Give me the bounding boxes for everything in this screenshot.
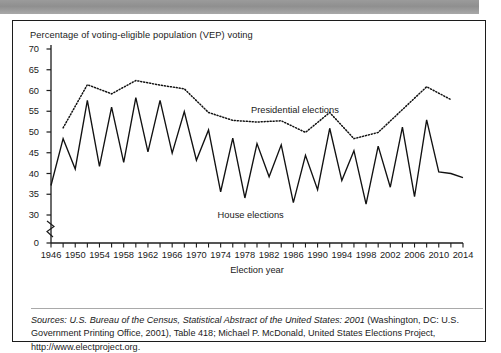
x-tick-label: 1946 [41,250,62,260]
figure-page: Percentage of voting-eligible population… [0,0,501,353]
y-tick-label: 50 [29,127,39,137]
x-tick-label: 1962 [138,250,159,260]
x-tick-label: 1990 [307,250,328,260]
chart-title: Percentage of voting-eligible population… [30,30,253,40]
top-band-right-gap [479,0,501,14]
x-tick-label: 1958 [113,250,134,260]
x-tick-label: 1950 [65,250,86,260]
y-tick-label: 65 [29,65,39,75]
source-citation-italic: U.S. Bureau of the Census, Statistical A… [67,315,365,325]
x-tick-label: 1998 [356,250,377,260]
y-tick-label: 70 [29,44,39,54]
y-tick-label: 60 [29,86,39,96]
x-tick-label: 2006 [404,250,425,260]
x-tick-label: 2002 [380,250,401,260]
y-tick-label: 40 [29,169,39,179]
x-tick-label: 2010 [428,250,449,260]
x-tick-label: 1974 [210,250,231,260]
y-tick-label: 30 [29,210,39,220]
source-note: Sources: U.S. Bureau of the Census, Stat… [31,314,486,353]
y-tick-label: 55 [29,106,39,116]
presidential-series-label: Presidential elections [251,105,339,115]
house-series-label: House elections [218,210,284,220]
x-tick-label: 1982 [259,250,280,260]
x-tick-label: 1986 [283,250,304,260]
x-tick-label: 1978 [235,250,256,260]
x-axis-title: Election year [230,265,284,275]
source-prefix: Sources: [31,315,67,325]
y-tick-label: 45 [29,148,39,158]
y-tick-label: 35 [29,189,39,199]
x-tick-label: 1966 [162,250,183,260]
x-tick-label: 1970 [186,250,207,260]
top-gray-band [0,0,501,14]
x-tick-label: 2014 [453,250,474,260]
x-tick-label: 1994 [331,250,352,260]
source-divider [31,308,483,309]
x-tick-label: 1954 [89,250,110,260]
y-tick-label: 0 [34,238,39,248]
figure-box: Percentage of voting-eligible population… [12,20,486,342]
